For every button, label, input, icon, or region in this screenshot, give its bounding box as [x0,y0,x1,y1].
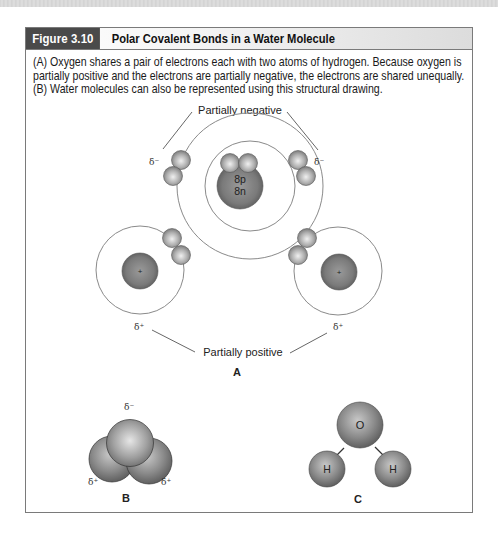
delta-negative-right: δ⁻ [314,157,324,167]
delta-negative: δ⁻ [124,402,134,412]
delta-positive-left: δ⁺ [88,477,98,487]
delta-negative-left: δ⁻ [149,157,159,167]
oxygen-protons: 8p [234,173,246,185]
electron-group [164,151,191,186]
leader-line [152,330,195,352]
oxygen-neutrons: 8n [234,185,246,197]
panel-c-label: C [354,493,362,505]
hydrogen-symbol-left: H [323,463,331,475]
water-molecule-diagram: Partially negative 8p 8n + + [0,0,498,540]
hydrogen-left-charge: + [138,267,143,276]
delta-positive-right: δ⁺ [161,477,171,487]
delta-positive-left: δ⁺ [134,322,144,332]
oxygen-symbol: O [356,419,365,431]
partially-positive-label: Partially positive [203,346,282,358]
panel-c-structural-model: O H H C [309,402,411,505]
panel-b-space-filling-model: δ⁻ δ⁺ δ⁺ B [88,402,172,504]
panel-a-bohr-model: Partially negative 8p 8n + + [96,104,382,378]
hydrogen-symbol-right: H [389,463,397,475]
partially-negative-label: Partially negative [198,104,282,116]
oxygen-sphere [107,420,154,467]
leader-line [290,333,327,353]
shared-electron-pair-right [289,229,317,265]
panel-a-label: A [233,366,241,378]
leader-line [287,112,318,150]
electron-group [289,151,316,186]
panel-b-label: B [122,492,130,504]
delta-positive-right: δ⁺ [333,322,343,332]
leader-line [163,112,192,149]
hydrogen-right-charge: + [337,268,342,277]
shared-electron-pair-left [163,229,191,265]
